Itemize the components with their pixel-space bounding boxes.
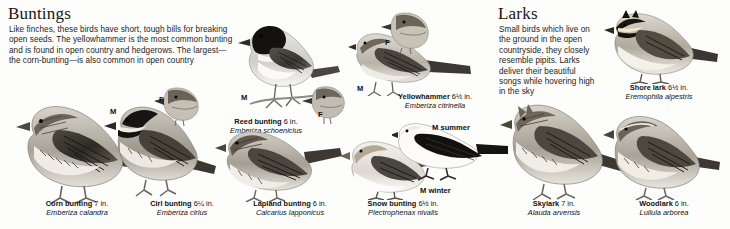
yellowhammer-common-name: Yellowhammer	[398, 92, 450, 101]
caption-reed-bunting: Reed bunting 6 in. Emberiza schoeniclus	[206, 118, 326, 135]
yellowhammer-male-illustration	[348, 26, 473, 96]
section-intro-buntings: Like finches, these birds have short, to…	[9, 25, 237, 67]
cirl-bunting-common-name: Cirl bunting	[150, 199, 191, 208]
snow-bunting-latin-name: Plectrophenax nivalis	[348, 209, 458, 218]
corn-bunting-illustration	[6, 98, 166, 204]
woodlark-size: 6 in.	[675, 199, 689, 208]
reed-bunting-common-name: Reed bunting	[234, 117, 281, 126]
caption-snow-bunting: Snow bunting 6½ in. Plectrophenax nivali…	[348, 200, 458, 217]
skylark-latin-name: Alauda arvensis	[504, 209, 604, 218]
caption-cirl-bunting: Cirl bunting 6¼ in. Emberiza cirlus	[130, 200, 234, 217]
woodlark-illustration	[598, 108, 724, 200]
yellowhammer-latin-name: Emberiza citrinella	[373, 102, 497, 111]
caption-lapland-bunting: Lapland bunting 6 in. Calcarius lapponic…	[234, 200, 346, 217]
cirl-bunting-size: 6¼ in.	[194, 199, 214, 208]
corn-bunting-size: 7 in.	[94, 199, 108, 208]
corn-bunting-latin-name: Emberiza calandra	[22, 209, 132, 218]
shore-lark-latin-name: Eremophila alpestris	[600, 93, 718, 102]
caption-yellowhammer: Yellowhammer 6½ in. Emberiza citrinella	[373, 93, 497, 110]
caption-shore-lark: Shore lark 6½ in. Eremophila alpestris	[600, 84, 718, 101]
reed-bunting-size: 6 in.	[284, 117, 298, 126]
corn-bunting-common-name: Corn bunting	[46, 199, 92, 208]
section-intro-larks: Small birds which live on the ground in …	[499, 25, 595, 98]
shore-lark-size: 6½ in.	[668, 83, 688, 92]
marker-cirl-bunting-male: M	[110, 107, 116, 116]
skylark-common-name: Skylark	[533, 199, 559, 208]
snow-bunting-common-name: Snow bunting	[367, 199, 416, 208]
shore-lark-illustration	[600, 6, 722, 84]
snow-bunting-size: 6½ in.	[418, 199, 438, 208]
cirl-bunting-latin-name: Emberiza cirlus	[130, 209, 234, 218]
marker-yellowhammer-male: M	[357, 84, 363, 93]
illustrated-bird-guide-page: Buntings Like finches, these birds have …	[0, 0, 730, 229]
caption-corn-bunting: Corn bunting 7 in. Emberiza calandra	[22, 200, 132, 217]
yellowhammer-size: 6½ in.	[452, 92, 472, 101]
marker-yellowhammer-female: F	[385, 38, 390, 47]
section-title-buntings: Buntings	[8, 4, 71, 24]
marker-cirl-bunting-female: F	[159, 95, 164, 104]
skylark-illustration	[492, 96, 628, 200]
marker-snow-bunting-male-winter: M winter	[420, 186, 451, 195]
marker-reed-bunting-male: M	[241, 93, 247, 102]
skylark-size: 7 in.	[561, 199, 575, 208]
shore-lark-common-name: Shore lark	[630, 83, 666, 92]
woodlark-common-name: Woodlark	[639, 199, 673, 208]
caption-woodlark: Woodlark 6 in. Lullula arborea	[612, 200, 716, 217]
section-title-larks: Larks	[498, 4, 538, 24]
lapland-bunting-size: 6 in.	[313, 199, 327, 208]
reed-bunting-latin-name: Emberiza schoeniclus	[206, 127, 326, 136]
lapland-bunting-common-name: Lapland bunting	[253, 199, 310, 208]
marker-snow-bunting-male-summer: M summer	[432, 123, 470, 132]
caption-skylark: Skylark 7 in. Alauda arvensis	[504, 200, 604, 217]
woodlark-latin-name: Lullula arborea	[612, 209, 716, 218]
lapland-bunting-latin-name: Calcarius lapponicus	[234, 209, 346, 218]
